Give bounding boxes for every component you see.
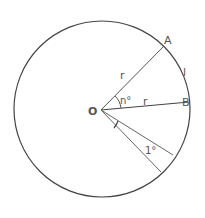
label-angle-1: 1° bbox=[145, 145, 156, 156]
label-arc-l: l bbox=[183, 66, 186, 79]
radius-lower-2 bbox=[101, 110, 161, 172]
label-radius-oa: r bbox=[120, 69, 125, 82]
label-o: O bbox=[88, 105, 97, 118]
label-a: A bbox=[164, 34, 172, 47]
label-angle-n: n° bbox=[120, 95, 131, 106]
label-radius-ob: r bbox=[143, 95, 148, 108]
diagram-canvas: O A B r r l n° 1° bbox=[0, 0, 205, 218]
label-b: B bbox=[182, 96, 190, 109]
radius-lower-1 bbox=[101, 110, 173, 155]
radius-oa bbox=[101, 47, 163, 110]
